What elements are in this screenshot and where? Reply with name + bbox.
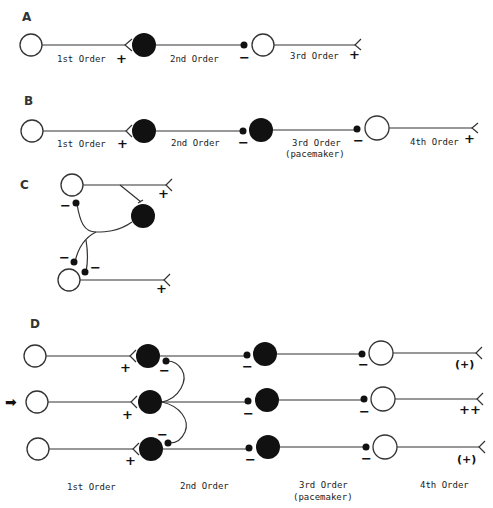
inhibitory-synapse-icon (361, 396, 368, 403)
first-order-neuron (26, 391, 48, 413)
order-label: 2nd Order (170, 54, 219, 64)
row-2: ➡ + − − ++ (5, 387, 483, 422)
panel-b: B 1st Order 2nd Order 3rd Order (pacemak… (21, 94, 478, 159)
inhibitory-sign: − (361, 451, 372, 466)
output-sign: (+) (457, 453, 476, 466)
order-label: 1st Order (57, 54, 106, 64)
receptor-neuron-top (61, 174, 83, 196)
first-order-neuron (21, 120, 43, 142)
third-order-pacemaker-neuron (253, 342, 277, 366)
second-order-neuron (136, 344, 160, 368)
branch-to-interneuron (120, 185, 143, 203)
inhibitory-sign: − (157, 427, 168, 442)
excitatory-sign: + (349, 47, 360, 62)
order-label: 3rd Order (290, 51, 339, 61)
inhibitory-synapse-icon (245, 398, 252, 405)
excitatory-sign: + (125, 453, 136, 468)
inhibitory-sign: − (60, 198, 71, 213)
inhibitory-sign: − (90, 260, 101, 275)
receptor-neuron-bottom (58, 269, 80, 291)
panel-d-label: D (30, 317, 40, 331)
feedback-branch (75, 232, 96, 262)
inhibitory-sign: − (239, 50, 250, 65)
fourth-order-neuron (371, 387, 395, 411)
inhibitory-sign: − (353, 133, 364, 148)
inhibitory-sign: − (242, 359, 253, 374)
panel-d: D + − − (+) ➡ (5, 317, 485, 502)
second-order-neuron (138, 390, 162, 414)
excitatory-sign: + (156, 281, 167, 296)
third-order-pacemaker-neuron (256, 435, 280, 459)
inhibitory-sign: − (359, 404, 370, 419)
feedback-dendrite (77, 204, 132, 232)
fourth-order-neuron (369, 341, 393, 365)
inhibitory-synapse-icon (246, 445, 253, 452)
row-1: + − − (+) (24, 341, 482, 375)
order-label: 2nd Order (180, 481, 229, 491)
panel-c: C − + − − + (20, 174, 172, 296)
excitatory-sign: + (464, 131, 475, 146)
excitatory-sign: + (158, 186, 169, 201)
order-label: 2nd Order (171, 138, 220, 148)
panel-c-label: C (20, 178, 29, 192)
first-order-neuron (20, 34, 42, 56)
inhibitory-synapse-icon (240, 128, 247, 135)
retinal-circuit-diagram: A 1st Order 2nd Order 3rd Order + − + B … (0, 0, 493, 508)
inhibitory-sign: − (245, 452, 256, 467)
third-order-neuron (252, 34, 274, 56)
panel-a: A 1st Order 2nd Order 3rd Order + − + (20, 10, 361, 66)
excitatory-sign: + (120, 360, 131, 375)
inhibitory-sign: − (238, 135, 249, 150)
third-order-pacemaker-neuron (255, 388, 279, 412)
excitatory-sign: + (122, 407, 133, 422)
fourth-order-neuron (373, 435, 397, 459)
order-label: 4th Order (420, 480, 469, 490)
pacemaker-label: (pacemaker) (285, 149, 345, 159)
output-sign: ++ (459, 402, 481, 417)
panel-a-label: A (22, 10, 32, 24)
interneuron (131, 204, 155, 228)
excitatory-synapse-icon (125, 39, 132, 51)
second-order-neuron (132, 33, 156, 57)
inhibitory-sign: − (358, 357, 369, 372)
pacemaker-label: (pacemaker) (293, 492, 353, 502)
inhibitory-sign: − (59, 250, 70, 265)
first-order-neuron (27, 438, 49, 460)
order-label: 1st Order (57, 139, 106, 149)
inhibitory-synapse-icon (241, 42, 248, 49)
inhibitory-synapse-icon (82, 269, 89, 276)
feedback-branch (86, 240, 88, 272)
order-label: 4th Order (410, 137, 459, 147)
order-label: 3rd Order (292, 138, 341, 148)
inhibitory-synapse-icon (244, 352, 251, 359)
row-3: + − − (+) (27, 435, 485, 468)
fourth-order-neuron (365, 116, 389, 140)
inhibitory-synapse-icon (71, 259, 78, 266)
output-sign: (+) (455, 358, 474, 371)
panel-b-label: B (24, 94, 33, 108)
input-arrow-icon: ➡ (5, 394, 17, 410)
second-order-neuron (132, 119, 156, 143)
inhibitory-sign: − (159, 363, 170, 378)
excitatory-sign: + (117, 136, 128, 151)
order-label: 1st Order (67, 482, 116, 492)
third-order-pacemaker-neuron (249, 118, 273, 142)
inhibitory-synapse-icon (73, 200, 80, 207)
first-order-neuron (24, 345, 46, 367)
inhibitory-sign: − (243, 406, 254, 421)
inhibitory-synapse-icon (354, 126, 361, 133)
order-label: 3rd Order (299, 480, 348, 490)
excitatory-sign: + (116, 51, 127, 66)
inhibitory-synapse-icon (363, 444, 370, 451)
